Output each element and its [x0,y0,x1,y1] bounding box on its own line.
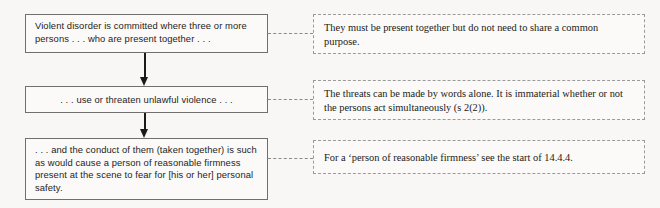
dashed-connector-3 [268,158,313,159]
arrow-head [140,129,148,138]
flow-step-box-3: . . . and the conduct of them (taken tog… [25,138,268,200]
flowchart-canvas: Violent disorder is committed where thre… [0,0,660,208]
flow-step-label-2: . . . use or threaten unlawful violence … [60,94,233,107]
annotation-note-3: For a ‘person of reasonable firmness’ se… [313,140,645,174]
annotation-note-2: The threats can be made by words alone. … [313,80,645,120]
annotation-note-3-label: For a ‘person of reasonable firmness’ se… [324,151,573,165]
down-arrow-icon-1 [140,53,150,86]
annotation-note-1: They must be present together but do not… [313,14,645,54]
dashed-connector-1 [268,33,313,34]
dashed-connector-2 [268,99,313,100]
arrow-shaft [144,113,146,130]
arrow-shaft [144,53,146,78]
flow-step-box-2: . . . use or threaten unlawful violence … [25,86,268,113]
arrow-head [140,77,148,86]
down-arrow-icon-2 [140,113,150,138]
flow-step-box-1: Violent disorder is committed where thre… [25,14,268,53]
